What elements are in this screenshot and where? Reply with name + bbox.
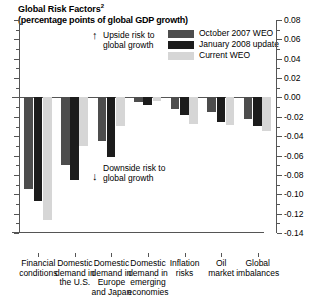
plot-area: -0.14-0.12-0.10-0.08-0.06-0.04-0.020.000…: [12, 20, 264, 233]
y-tick-left--0.11: [16, 204, 19, 205]
x-tick-5: [221, 253, 222, 257]
y-tick-left--0.07: [16, 165, 19, 166]
bar-1-5: [217, 97, 226, 121]
bar-1-4: [180, 97, 189, 114]
page-title: Global Risk Factors2: [18, 3, 104, 14]
y-tick-right--0.14: [277, 233, 282, 234]
y-tick-right--0.05: [277, 146, 280, 147]
x-tick-3: [148, 253, 149, 257]
x-tick-6: [258, 253, 259, 257]
y-tick-right-0.05: [277, 49, 280, 50]
y-tick-right-0.07: [277, 30, 280, 31]
bar-1-6: [253, 97, 262, 126]
y-axis-label-0.04: 0.04: [284, 55, 301, 63]
y-tick-right--0.06: [277, 156, 282, 157]
y-axis-label--0.06: -0.06: [284, 152, 303, 160]
bar-0-4: [171, 97, 180, 109]
bar-0-5: [207, 97, 216, 112]
bar-1-0: [34, 97, 43, 201]
y-tick-left--0.04: [14, 136, 19, 137]
y-tick-right-0.06: [277, 39, 282, 40]
y-tick-left-0.05: [16, 49, 19, 50]
y-axis-label-0.08: 0.08: [284, 16, 301, 24]
y-tick-right--0.09: [277, 185, 280, 186]
bar-2-4: [189, 97, 198, 123]
y-tick-left--0.05: [16, 146, 19, 147]
bar-2-5: [226, 97, 235, 124]
bar-2-2: [116, 97, 125, 126]
bar-1-3: [143, 97, 152, 105]
y-tick-right-0.02: [277, 78, 282, 79]
y-axis-left: [19, 20, 20, 233]
y-tick-right-0.03: [277, 68, 280, 69]
bar-1-1: [70, 97, 79, 179]
y-tick-right--0.01: [277, 107, 280, 108]
bar-0-1: [61, 97, 70, 165]
y-tick-left-0.01: [16, 88, 19, 89]
bar-0-0: [24, 97, 33, 189]
y-tick-left-0.04: [14, 59, 19, 60]
y-tick-right-0.04: [277, 59, 282, 60]
x-tick-2: [111, 253, 112, 257]
y-axis-label--0.08: -0.08: [284, 171, 303, 179]
y-tick-left--0.02: [14, 117, 19, 118]
title-footnote-marker: 2: [101, 3, 104, 9]
y-axis-label--0.04: -0.04: [284, 132, 303, 140]
x-tick-1: [75, 253, 76, 257]
y-tick-left--0.08: [14, 175, 19, 176]
y-tick-left--0.13: [16, 223, 19, 224]
y-tick-left-0.00: [14, 97, 19, 98]
y-axis-label--0.14: -0.14: [284, 229, 303, 237]
y-axis-label--0.10: -0.10: [284, 190, 303, 198]
bar-2-3: [153, 97, 162, 101]
y-tick-left--0.01: [16, 107, 19, 108]
y-axis-label--0.02: -0.02: [284, 113, 303, 121]
y-tick-left--0.09: [16, 185, 19, 186]
y-tick-right-0.00: [277, 97, 282, 98]
y-tick-right--0.11: [277, 204, 280, 205]
y-tick-right--0.08: [277, 175, 282, 176]
y-tick-right-0.01: [277, 88, 280, 89]
x-tick-4: [185, 253, 186, 257]
bar-0-2: [98, 97, 107, 141]
y-axis-label-0.06: 0.06: [284, 35, 301, 43]
y-tick-left-0.03: [16, 68, 19, 69]
y-tick-right--0.07: [277, 165, 280, 166]
bar-2-1: [79, 97, 88, 145]
bar-2-6: [262, 97, 271, 131]
y-axis-label-0.02: 0.02: [284, 74, 301, 82]
bar-0-6: [244, 97, 253, 118]
y-tick-right--0.03: [277, 127, 280, 128]
y-tick-left-0.06: [14, 39, 19, 40]
x-axis-line: [12, 232, 264, 233]
bar-1-2: [107, 97, 116, 157]
y-tick-right--0.12: [277, 214, 282, 215]
x-axis-label-6: Global imbalances: [235, 259, 280, 278]
y-tick-left-0.02: [14, 78, 19, 79]
y-tick-left-0.07: [16, 30, 19, 31]
title-text: Global Risk Factors: [18, 4, 101, 14]
y-tick-right--0.13: [277, 223, 280, 224]
bar-0-3: [134, 97, 143, 102]
x-tick-0: [38, 253, 39, 257]
y-tick-left-0.08: [14, 20, 19, 21]
y-tick-left--0.12: [14, 214, 19, 215]
y-axis-label--0.12: -0.12: [284, 210, 303, 218]
y-tick-left--0.03: [16, 127, 19, 128]
bar-2-0: [43, 97, 52, 220]
y-tick-right--0.02: [277, 117, 282, 118]
y-tick-right--0.10: [277, 194, 282, 195]
y-tick-left--0.10: [14, 194, 19, 195]
y-tick-right--0.04: [277, 136, 282, 137]
y-axis-label-0.00: 0.00: [284, 93, 301, 101]
y-tick-right-0.08: [277, 20, 282, 21]
y-tick-left--0.06: [14, 156, 19, 157]
y-tick-left--0.14: [14, 233, 19, 234]
